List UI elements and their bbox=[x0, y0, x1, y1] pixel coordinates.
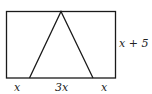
label-bottom-middle: 3x bbox=[55, 82, 68, 93]
label-right-side: x + 5 bbox=[119, 38, 148, 49]
triangle bbox=[30, 12, 94, 79]
label-bottom-right: x bbox=[101, 82, 107, 93]
rectangle bbox=[7, 12, 116, 79]
label-bottom-left: x bbox=[14, 82, 20, 93]
